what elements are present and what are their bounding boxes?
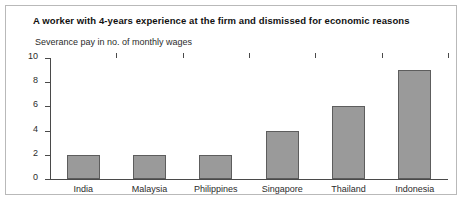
x-axis-label: Singapore (262, 184, 303, 194)
y-axis-tick: 0 (45, 179, 50, 180)
x-axis-label: India (73, 184, 93, 194)
x-axis-label: Thailand (331, 184, 366, 194)
chart-frame: A worker with 4-years experience at the … (5, 5, 457, 195)
x-axis-label: Philippines (194, 184, 238, 194)
y-axis-tick-label: 2 (33, 148, 38, 158)
chart-subtitle: Severance pay in no. of monthly wages (35, 37, 192, 47)
y-axis-tick-label: 4 (33, 124, 38, 134)
x-axis-label: Indonesia (395, 184, 434, 194)
y-axis-tick: 4 (45, 131, 50, 132)
y-axis-tick-label: 0 (33, 172, 38, 182)
x-axis-tick (315, 53, 316, 58)
plot-area: 0246810 IndiaMalaysiaPhilippinesSingapor… (50, 58, 448, 179)
x-axis-tick (382, 53, 383, 58)
chart-title: A worker with 4-years experience at the … (33, 15, 410, 26)
x-axis-tick (116, 53, 117, 58)
x-axis-label: Malaysia (132, 184, 168, 194)
x-axis-tick (448, 53, 449, 58)
y-axis-line (50, 58, 51, 179)
y-axis-tick-label: 10 (28, 51, 38, 61)
x-axis-tick (249, 53, 250, 58)
y-axis-tick: 10 (45, 58, 50, 59)
bar-malaysia (133, 155, 166, 179)
y-axis-tick: 6 (45, 106, 50, 107)
bar-thailand (332, 106, 365, 179)
x-axis-tick (183, 53, 184, 58)
y-axis-tick-label: 6 (33, 99, 38, 109)
y-axis-tick: 2 (45, 155, 50, 156)
bar-indonesia (398, 70, 431, 179)
x-axis-line (50, 179, 448, 180)
y-axis-tick: 8 (45, 82, 50, 83)
bar-singapore (266, 131, 299, 179)
bar-philippines (199, 155, 232, 179)
y-axis-tick-label: 8 (33, 75, 38, 85)
bar-india (67, 155, 100, 179)
